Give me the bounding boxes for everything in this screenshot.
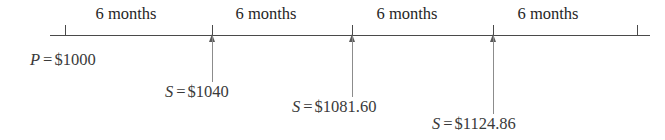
sum-symbol: S bbox=[165, 82, 174, 101]
period-label-4: 6 months bbox=[478, 4, 618, 24]
axis-end-tick-right bbox=[637, 25, 638, 36]
marker-stem bbox=[493, 36, 494, 114]
sum-amount: $1124.86 bbox=[455, 114, 516, 133]
sum-label-1: S=$1040 bbox=[165, 82, 229, 101]
sum-label-3: S=$1124.86 bbox=[432, 114, 516, 133]
period-label-2: 6 months bbox=[196, 4, 336, 24]
sum-symbol: S bbox=[292, 97, 301, 116]
sum-symbol: S bbox=[432, 114, 441, 133]
marker-stem bbox=[352, 36, 353, 97]
compound-interest-timeline-figure: 6 months 6 months 6 months 6 months P=$1… bbox=[0, 0, 665, 140]
principal-label: P=$1000 bbox=[30, 50, 96, 69]
sum-label-2: S=$1081.60 bbox=[292, 97, 376, 116]
principal-amount: $1000 bbox=[54, 50, 95, 69]
axis-end-tick-left bbox=[65, 25, 66, 36]
equals-sign: = bbox=[41, 50, 54, 69]
sum-amount: $1081.60 bbox=[315, 97, 377, 116]
equals-sign: = bbox=[441, 114, 454, 133]
equals-sign: = bbox=[301, 97, 314, 116]
marker-stem bbox=[212, 36, 213, 82]
period-label-1: 6 months bbox=[56, 4, 196, 24]
period-label-3: 6 months bbox=[337, 4, 477, 24]
sum-amount: $1040 bbox=[188, 82, 229, 101]
principal-symbol: P bbox=[30, 50, 41, 69]
equals-sign: = bbox=[174, 82, 187, 101]
